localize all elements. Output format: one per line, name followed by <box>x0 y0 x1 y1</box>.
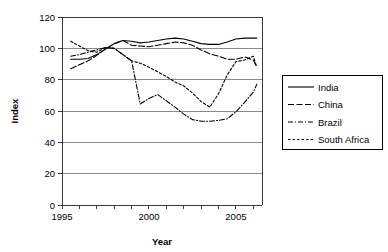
legend-label-china: China <box>318 99 344 110</box>
series-line-brazil <box>71 48 257 122</box>
y-axis-tick-labels: 020406080100120 <box>39 12 55 211</box>
y-tick-label-60: 60 <box>44 106 55 117</box>
gridlines <box>62 48 262 173</box>
y-tick-label-20: 20 <box>44 168 55 179</box>
series-line-china <box>71 41 257 69</box>
y-tick-label-120: 120 <box>39 12 55 23</box>
series-line-south-africa <box>71 41 257 107</box>
legend-label-brazil: Brazil <box>318 117 342 128</box>
x-tick-label-1995: 1995 <box>51 211 72 222</box>
y-tick-label-100: 100 <box>39 43 55 54</box>
x-axis-title: Year <box>152 236 172 247</box>
x-axis-ticks <box>62 205 253 209</box>
y-tick-label-0: 0 <box>50 200 55 211</box>
x-tick-label-2005: 2005 <box>225 211 246 222</box>
y-axis-title: Index <box>9 98 20 124</box>
x-axis-tick-labels: 199520002005 <box>51 211 246 222</box>
line-chart: 020406080100120 199520002005 Index Year … <box>0 0 388 252</box>
chart-container: 020406080100120 199520002005 Index Year … <box>0 0 388 252</box>
y-tick-label-40: 40 <box>44 137 55 148</box>
legend-label-south-africa: South Africa <box>318 134 370 145</box>
y-tick-label-80: 80 <box>44 74 55 85</box>
y-axis-ticks <box>58 17 62 205</box>
x-tick-label-2000: 2000 <box>138 211 159 222</box>
legend-label-india: India <box>318 82 339 93</box>
